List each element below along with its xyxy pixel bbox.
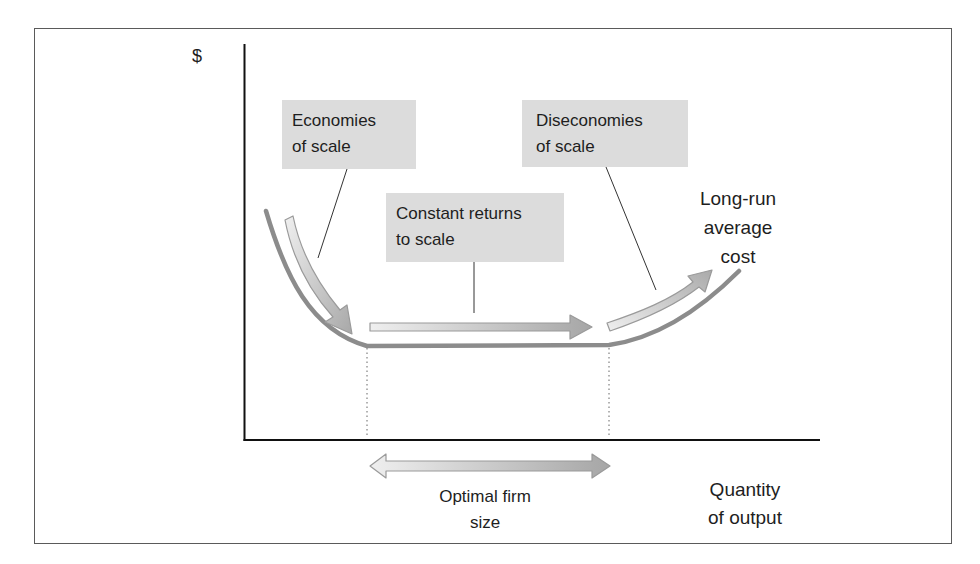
diseconomies-of-scale-callout: Diseconomies of scale bbox=[522, 100, 688, 167]
constant-label-line1: Constant returns bbox=[396, 201, 554, 227]
optimal-firm-size-label: Optimal firm size bbox=[405, 484, 565, 536]
economies-label-line2: of scale bbox=[292, 134, 406, 160]
diseconomies-label-line2: of scale bbox=[536, 134, 678, 160]
constant-returns-arrow-icon bbox=[370, 315, 592, 339]
diseconomies-arrow-icon bbox=[607, 270, 712, 331]
economies-of-scale-callout: Economies of scale bbox=[282, 100, 416, 169]
lrac-label-line1: Long-run bbox=[688, 184, 788, 213]
economies-leader-line bbox=[318, 169, 347, 258]
lrac-curve-label: Long-run average cost bbox=[688, 184, 788, 271]
diseconomies-leader-line bbox=[606, 167, 656, 290]
lrac-label-line3: cost bbox=[688, 242, 788, 271]
y-axis-label: $ bbox=[192, 46, 202, 67]
economies-label-line1: Economies bbox=[292, 108, 406, 134]
optimal-size-double-arrow-icon bbox=[370, 454, 610, 478]
x-axis-label-line1: Quantity bbox=[680, 476, 810, 504]
lrac-label-line2: average bbox=[688, 213, 788, 242]
constant-returns-callout: Constant returns to scale bbox=[386, 193, 564, 262]
chart-plot-area bbox=[0, 0, 980, 564]
constant-label-line2: to scale bbox=[396, 227, 554, 253]
x-axis-label: Quantity of output bbox=[680, 476, 810, 532]
optimal-label-line1: Optimal firm bbox=[405, 484, 565, 510]
diseconomies-label-line1: Diseconomies bbox=[536, 108, 678, 134]
x-axis-label-line2: of output bbox=[680, 504, 810, 532]
optimal-label-line2: size bbox=[405, 510, 565, 536]
